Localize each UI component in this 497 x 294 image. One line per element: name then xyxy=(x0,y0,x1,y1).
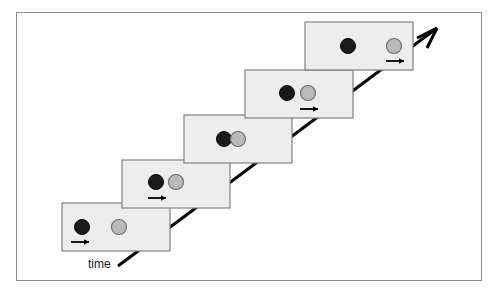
frame-3-black-ball xyxy=(217,132,232,147)
frame-4-black-ball xyxy=(280,86,295,101)
frame-2-black-ball xyxy=(149,175,164,190)
diagram-canvas xyxy=(0,0,497,294)
time-axis-label: time xyxy=(88,257,111,271)
time-axis-arrowhead xyxy=(417,28,437,48)
frame-2-grey-ball xyxy=(169,175,184,190)
frame-1 xyxy=(62,203,170,251)
frame-2 xyxy=(122,160,230,208)
frame-4 xyxy=(245,70,353,118)
collision-sequence-figure: time xyxy=(0,0,497,294)
frame-5 xyxy=(305,22,413,70)
frame-4-grey-ball xyxy=(301,86,316,101)
frame-5-grey-ball xyxy=(387,39,402,54)
frame-1-black-ball xyxy=(75,220,90,235)
frame-3 xyxy=(184,115,292,163)
frame-5-black-ball xyxy=(341,39,356,54)
frame-3-grey-ball xyxy=(231,132,246,147)
frame-4-panel xyxy=(245,70,353,118)
frame-1-grey-ball xyxy=(112,220,127,235)
